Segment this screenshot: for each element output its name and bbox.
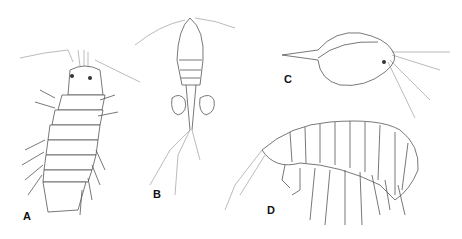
panel-label-b: B [153,188,161,200]
isopod-drawing [20,50,140,215]
crustacean-illustration [0,0,462,239]
copepod-drawing [135,18,235,195]
cladoceran-drawing [282,33,450,118]
panel-label-c: C [284,73,292,85]
panel-label-a: A [23,210,31,222]
amphipod-drawing [225,121,418,225]
panel-label-d: D [267,204,275,216]
